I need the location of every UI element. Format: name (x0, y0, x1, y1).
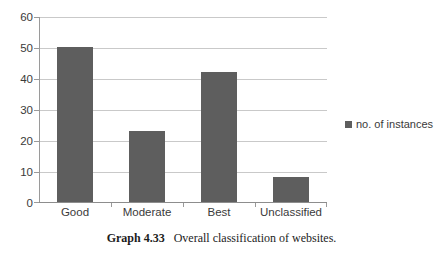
caption-text: Overall classification of websites. (174, 231, 337, 245)
y-tick-label: 0 (27, 197, 33, 209)
x-axis-labels: Good Moderate Best Unclassified (39, 206, 327, 224)
bar-best[interactable] (201, 72, 237, 202)
plot-area (39, 17, 327, 203)
y-tick-label: 50 (20, 42, 33, 54)
x-tick-label-best: Best (207, 206, 230, 218)
figure-caption: Graph 4.33Overall classification of webs… (0, 231, 443, 246)
y-tick-label: 20 (20, 135, 33, 147)
x-tick-label-moderate: Moderate (123, 206, 172, 218)
bar-good[interactable] (57, 47, 93, 202)
y-axis-labels: 60 50 40 30 20 10 0 (0, 17, 33, 203)
bar-chart: 60 50 40 30 20 10 0 (0, 0, 340, 226)
chart-legend: no. of instances (345, 118, 433, 130)
caption-number: Graph 4.33 (107, 231, 165, 245)
y-tick-label: 60 (20, 11, 33, 23)
y-tick-label: 30 (20, 104, 33, 116)
y-tick-label: 10 (20, 166, 33, 178)
legend-label: no. of instances (356, 118, 433, 130)
x-tick-label-unclassified: Unclassified (260, 206, 322, 218)
x-tick-label-good: Good (61, 206, 89, 218)
figure-graph-4-33: 60 50 40 30 20 10 0 (0, 0, 443, 254)
bar-moderate[interactable] (129, 131, 165, 202)
bar-series-no-of-instances (39, 17, 327, 203)
y-tick-label: 40 (20, 73, 33, 85)
square-marker-icon (345, 121, 352, 128)
bar-unclassified[interactable] (273, 177, 309, 202)
